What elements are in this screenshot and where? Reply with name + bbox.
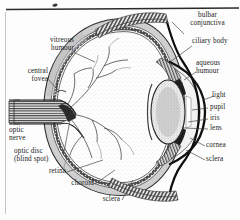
label-central-fovea: central fovea [4, 68, 48, 83]
pupil-opening [186, 96, 191, 128]
label-lens: lens [210, 125, 238, 133]
eye-anatomy-figure: vitreous humour central fovea optic nerv… [0, 0, 240, 220]
lens-core-shade [156, 87, 180, 137]
label-ciliary-body: ciliary body [192, 38, 240, 46]
label-vitreous-humour: vitreous humour [20, 37, 74, 52]
label-sclera-right: sclera [206, 156, 240, 164]
label-light: light [212, 92, 240, 100]
label-choroid: choroid [46, 180, 94, 188]
label-cornea: cornea [206, 142, 240, 150]
label-optic-disc: optic disc (blind spot) [14, 148, 74, 163]
eye-diagram-svg [0, 0, 240, 220]
label-aqueous-humour: aqueous humour [196, 60, 240, 75]
label-iris: iris [210, 115, 238, 123]
label-optic-nerve: optic nerve [9, 127, 49, 142]
label-bulbar-conjunctiva: bulbar conjunctiva [180, 12, 235, 27]
label-pupil: pupil [210, 104, 238, 112]
label-retina: retina [24, 168, 66, 176]
label-sclera-bottom: sclera [72, 196, 120, 204]
